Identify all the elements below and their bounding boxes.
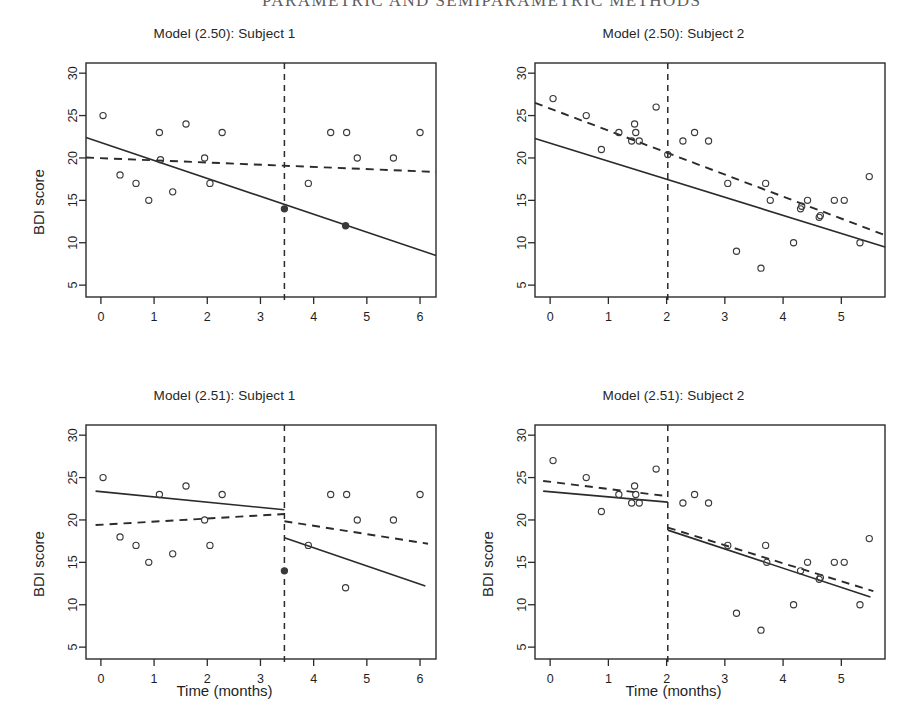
data-point-highlighted xyxy=(342,223,348,229)
y-axis-tick-label: 30 xyxy=(67,428,81,442)
data-point xyxy=(202,517,208,523)
data-point xyxy=(170,551,176,557)
data-point xyxy=(305,180,311,186)
y-axis-tick-label: 20 xyxy=(516,151,530,165)
y-axis-tick-label: 15 xyxy=(67,555,81,569)
data-point xyxy=(344,129,350,135)
data-point xyxy=(146,559,152,565)
data-point xyxy=(636,500,642,506)
chart-panel-model-2-51-subject-2: Model (2.51): Subject 2 BDI score 012345… xyxy=(449,362,898,724)
data-point xyxy=(705,500,711,506)
data-point xyxy=(636,138,642,144)
scatter-plot-svg: 012345651015202530 xyxy=(0,362,449,724)
x-axis-tick-label: 0 xyxy=(97,310,104,324)
fit-line-population-fit xyxy=(284,521,428,543)
y-axis-tick-label: 25 xyxy=(516,109,530,123)
data-point xyxy=(797,568,803,574)
data-point xyxy=(328,129,334,135)
data-point xyxy=(733,610,739,616)
data-point xyxy=(804,197,810,203)
x-axis-tick-label: 1 xyxy=(605,310,612,324)
fit-line-subject-fit xyxy=(86,138,436,256)
data-point xyxy=(733,248,739,254)
x-axis-tick-label: 4 xyxy=(780,310,787,324)
x-axis-tick-label: 2 xyxy=(663,310,670,324)
data-point xyxy=(631,121,637,127)
data-point xyxy=(653,466,659,472)
data-point xyxy=(857,602,863,608)
data-point xyxy=(207,542,213,548)
data-point xyxy=(857,240,863,246)
data-point xyxy=(758,627,764,633)
chart-panel-model-2-50-subject-1: Model (2.50): Subject 1 BDI score 012345… xyxy=(0,0,449,362)
y-axis-tick-label: 30 xyxy=(516,428,530,442)
data-point xyxy=(691,491,697,497)
y-axis-tick-label: 30 xyxy=(516,66,530,80)
fit-line-subject-fit xyxy=(96,491,285,510)
y-axis-tick-label: 15 xyxy=(67,193,81,207)
x-axis-tick-label: 5 xyxy=(838,310,845,324)
data-point xyxy=(133,542,139,548)
x-axis-tick-label: 5 xyxy=(363,310,370,324)
data-point xyxy=(653,104,659,110)
plot-frame xyxy=(535,63,885,297)
data-point xyxy=(100,112,106,118)
x-axis-tick-label: 4 xyxy=(310,310,317,324)
data-point xyxy=(763,542,769,548)
data-point xyxy=(767,197,773,203)
y-axis-tick-label: 5 xyxy=(516,282,530,289)
data-point xyxy=(790,240,796,246)
data-point xyxy=(680,500,686,506)
data-point xyxy=(417,129,423,135)
y-axis-tick-label: 5 xyxy=(516,644,530,651)
data-point xyxy=(183,121,189,127)
scatter-plot-svg: 01234551015202530 xyxy=(449,362,898,724)
data-point xyxy=(207,180,213,186)
data-point xyxy=(583,112,589,118)
y-axis-tick-label: 20 xyxy=(67,151,81,165)
data-point xyxy=(170,189,176,195)
data-point xyxy=(550,96,556,102)
data-point xyxy=(550,458,556,464)
data-point xyxy=(763,180,769,186)
x-axis-tick-label: 6 xyxy=(417,310,424,324)
data-point xyxy=(705,138,711,144)
data-point xyxy=(100,474,106,480)
plot-frame xyxy=(86,63,436,297)
data-point xyxy=(866,174,872,180)
data-point xyxy=(790,602,796,608)
data-point xyxy=(219,129,225,135)
plot-frame xyxy=(535,425,885,659)
data-point xyxy=(146,197,152,203)
data-point xyxy=(804,559,810,565)
scatter-plot-svg: 012345651015202530 xyxy=(0,0,449,362)
data-point xyxy=(183,483,189,489)
data-point xyxy=(219,491,225,497)
data-point xyxy=(202,155,208,161)
data-point xyxy=(328,491,334,497)
chart-panel-model-2-50-subject-2: Model (2.50): Subject 2 0123455101520253… xyxy=(449,0,898,362)
chart-panel-model-2-51-subject-1: Model (2.51): Subject 1 BDI score 012345… xyxy=(0,362,449,724)
data-point xyxy=(831,197,837,203)
fit-line-subject-fit xyxy=(543,491,668,502)
y-axis-tick-label: 10 xyxy=(67,598,81,612)
y-axis-tick-label: 10 xyxy=(516,598,530,612)
data-point xyxy=(841,197,847,203)
data-point xyxy=(691,129,697,135)
y-axis-tick-label: 15 xyxy=(516,555,530,569)
data-point xyxy=(817,213,823,219)
plot-frame xyxy=(86,425,436,659)
y-axis-tick-label: 10 xyxy=(67,236,81,250)
data-point-highlighted xyxy=(281,568,287,574)
fit-line-population-fit xyxy=(86,158,436,172)
y-axis-tick-label: 10 xyxy=(516,236,530,250)
x-axis-label: Time (months) xyxy=(0,682,449,699)
data-point xyxy=(342,585,348,591)
data-point xyxy=(354,155,360,161)
data-point xyxy=(616,491,622,497)
y-axis-tick-label: 25 xyxy=(516,471,530,485)
data-point xyxy=(841,559,847,565)
data-point xyxy=(629,500,635,506)
data-point xyxy=(117,534,123,540)
data-point xyxy=(344,491,350,497)
